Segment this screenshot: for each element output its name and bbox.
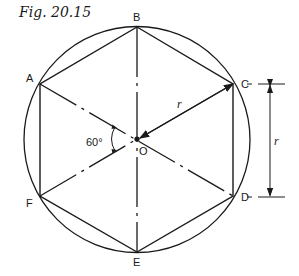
radius-label: r	[177, 97, 182, 111]
dimension-r	[247, 84, 285, 197]
vertex-label-b: B	[133, 11, 140, 23]
vertex-label-e: E	[133, 256, 140, 268]
center-point	[134, 136, 139, 141]
angle-arc	[112, 127, 116, 151]
vertex-label-f: F	[26, 197, 33, 209]
vertex-label-c: C	[241, 78, 249, 90]
vertex-label-a: A	[26, 72, 34, 84]
vertex-label-d: D	[241, 191, 249, 203]
dimension-label: r	[274, 134, 279, 148]
center-label: O	[139, 145, 148, 157]
angle-label: 60°	[86, 136, 103, 148]
hexagon-diagram: A B C D E F O 60° r r	[0, 0, 299, 276]
